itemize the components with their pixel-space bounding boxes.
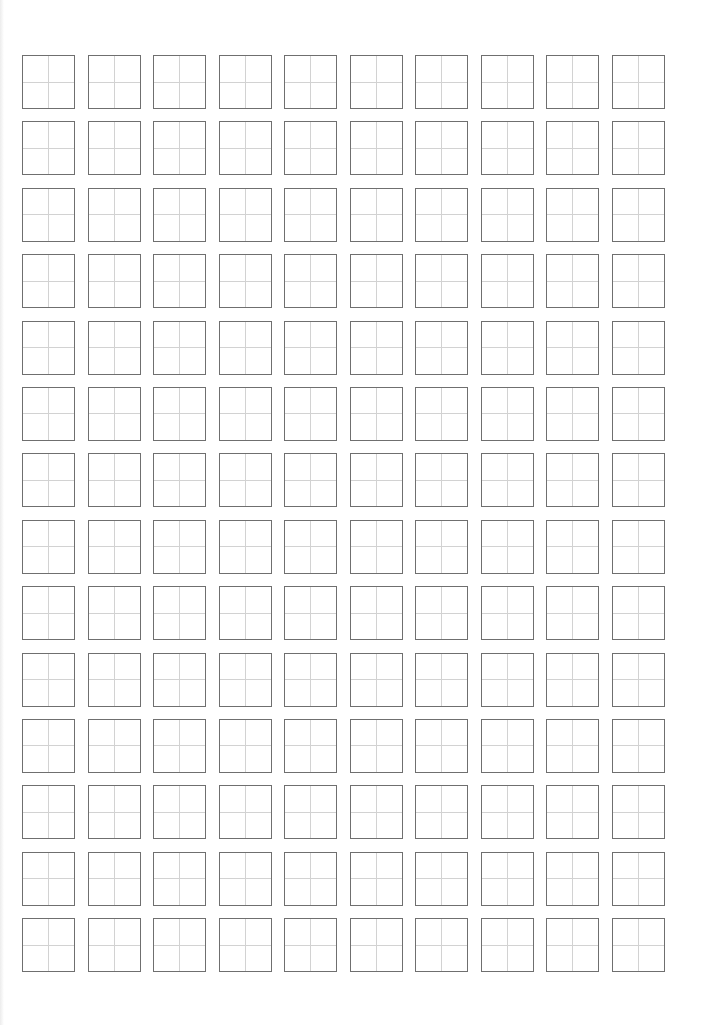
practice-cell [481, 55, 534, 109]
horizontal-guide-line [613, 812, 664, 813]
practice-cell [153, 55, 206, 109]
practice-cell [612, 254, 665, 308]
practice-cell [612, 55, 665, 109]
practice-cell [22, 121, 75, 175]
practice-cell [415, 852, 468, 906]
horizontal-guide-line [89, 546, 140, 547]
practice-cell [219, 453, 272, 507]
horizontal-guide-line [220, 812, 271, 813]
practice-cell [88, 321, 141, 375]
practice-cell [219, 188, 272, 242]
horizontal-guide-line [89, 148, 140, 149]
practice-cell [546, 719, 599, 773]
horizontal-guide-line [482, 82, 533, 83]
practice-cell [481, 254, 534, 308]
horizontal-guide-line [613, 679, 664, 680]
practice-cell [22, 719, 75, 773]
practice-cell [284, 520, 337, 574]
horizontal-guide-line [416, 878, 467, 879]
horizontal-guide-line [613, 347, 664, 348]
horizontal-guide-line [154, 480, 205, 481]
practice-cell [284, 719, 337, 773]
practice-cell [481, 188, 534, 242]
tianzige-grid [22, 55, 665, 972]
horizontal-guide-line [23, 546, 74, 547]
practice-cell [22, 321, 75, 375]
practice-cell [415, 254, 468, 308]
practice-cell [219, 586, 272, 640]
practice-cell [219, 387, 272, 441]
horizontal-guide-line [89, 679, 140, 680]
practice-cell [88, 653, 141, 707]
horizontal-guide-line [547, 945, 598, 946]
horizontal-guide-line [89, 281, 140, 282]
practice-cell [22, 785, 75, 839]
practice-cell [284, 188, 337, 242]
horizontal-guide-line [351, 613, 402, 614]
practice-cell [481, 520, 534, 574]
practice-cell [546, 55, 599, 109]
horizontal-guide-line [154, 148, 205, 149]
horizontal-guide-line [547, 214, 598, 215]
horizontal-guide-line [482, 679, 533, 680]
horizontal-guide-line [89, 347, 140, 348]
practice-cell [22, 586, 75, 640]
horizontal-guide-line [613, 745, 664, 746]
practice-cell [481, 387, 534, 441]
practice-cell [546, 254, 599, 308]
practice-cell [153, 852, 206, 906]
practice-cell [284, 453, 337, 507]
horizontal-guide-line [285, 613, 336, 614]
horizontal-guide-line [285, 945, 336, 946]
horizontal-guide-line [220, 745, 271, 746]
horizontal-guide-line [547, 679, 598, 680]
practice-cell [153, 653, 206, 707]
horizontal-guide-line [351, 347, 402, 348]
practice-cell [350, 55, 403, 109]
horizontal-guide-line [416, 812, 467, 813]
horizontal-guide-line [351, 214, 402, 215]
horizontal-guide-line [416, 480, 467, 481]
horizontal-guide-line [416, 745, 467, 746]
horizontal-guide-line [220, 480, 271, 481]
horizontal-guide-line [547, 878, 598, 879]
practice-cell [22, 653, 75, 707]
practice-cell [153, 520, 206, 574]
horizontal-guide-line [416, 546, 467, 547]
practice-cell [350, 321, 403, 375]
practice-cell [612, 852, 665, 906]
horizontal-guide-line [482, 281, 533, 282]
horizontal-guide-line [220, 214, 271, 215]
horizontal-guide-line [154, 945, 205, 946]
horizontal-guide-line [416, 148, 467, 149]
horizontal-guide-line [285, 878, 336, 879]
horizontal-guide-line [482, 148, 533, 149]
horizontal-guide-line [547, 745, 598, 746]
horizontal-guide-line [351, 745, 402, 746]
practice-cell [153, 918, 206, 972]
practice-cell [415, 321, 468, 375]
horizontal-guide-line [23, 812, 74, 813]
horizontal-guide-line [220, 413, 271, 414]
practice-cell [546, 520, 599, 574]
practice-cell [415, 653, 468, 707]
horizontal-guide-line [547, 613, 598, 614]
horizontal-guide-line [416, 613, 467, 614]
practice-cell [219, 55, 272, 109]
practice-cell [481, 918, 534, 972]
practice-cell [481, 653, 534, 707]
horizontal-guide-line [351, 480, 402, 481]
practice-cell [153, 387, 206, 441]
horizontal-guide-line [89, 214, 140, 215]
practice-cell [546, 121, 599, 175]
horizontal-guide-line [285, 82, 336, 83]
horizontal-guide-line [482, 480, 533, 481]
horizontal-guide-line [547, 413, 598, 414]
practice-cell [415, 719, 468, 773]
practice-cell [350, 586, 403, 640]
practice-cell [219, 719, 272, 773]
horizontal-guide-line [351, 812, 402, 813]
horizontal-guide-line [220, 281, 271, 282]
practice-cell [612, 188, 665, 242]
horizontal-guide-line [351, 546, 402, 547]
